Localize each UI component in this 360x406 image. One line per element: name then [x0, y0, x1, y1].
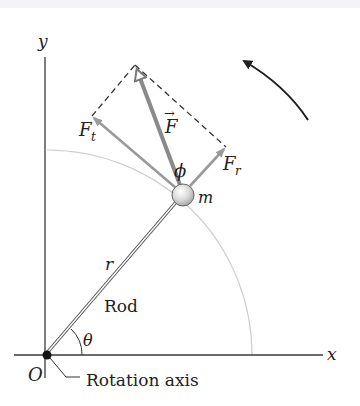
- rod-label: Rod: [104, 296, 138, 316]
- force-label: F →: [164, 106, 179, 137]
- vector-accent: →: [164, 106, 175, 121]
- rotation-axis-label: Rotation axis: [86, 370, 199, 390]
- tangential-force-arrow: [94, 118, 176, 188]
- mass-particle: [172, 184, 194, 206]
- radial-force-arrow: [190, 149, 224, 186]
- counterclockwise-arrow-icon: [244, 61, 308, 120]
- circular-path-arc: [47, 150, 252, 355]
- rotating-rod-diagram: y x O Rotation axis Rod r θ ϕ m F → F t …: [0, 0, 360, 406]
- tangential-force-label: F t: [78, 119, 96, 144]
- svg-text:r: r: [235, 164, 242, 178]
- radial-force-label: F r: [222, 153, 242, 178]
- origin-label: O: [28, 364, 43, 385]
- rotation-axis-leader: [50, 358, 80, 377]
- mass-label: m: [198, 188, 213, 207]
- svg-text:t: t: [91, 130, 96, 144]
- phi-label: ϕ: [174, 160, 186, 181]
- radius-label: r: [105, 254, 114, 274]
- x-axis-label: x: [327, 344, 337, 364]
- theta-label: θ: [83, 331, 93, 350]
- rod: [46, 201, 177, 354]
- theta-angle-arc: [71, 329, 82, 355]
- y-axis-label: y: [37, 31, 48, 51]
